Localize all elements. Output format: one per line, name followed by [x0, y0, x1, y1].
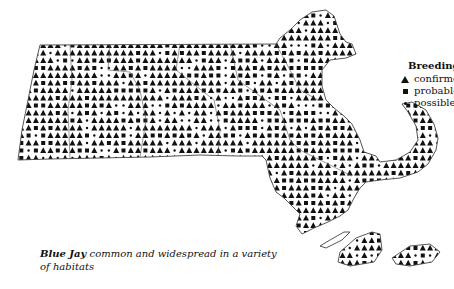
legend-item-possible: possible — [400, 97, 454, 109]
legend: Breeding confirmed probable possible — [400, 60, 454, 109]
legend-label: confirmed — [414, 73, 454, 85]
legend-title: Breeding — [408, 60, 454, 72]
species-name: Blue Jay — [40, 248, 86, 259]
species-caption: Blue Jay common and widespread in a vari… — [40, 247, 280, 273]
triangle-icon — [400, 76, 410, 83]
legend-item-probable: probable — [400, 85, 454, 97]
breeding-distribution-map — [0, 0, 454, 289]
square-icon — [400, 89, 410, 94]
legend-label: possible — [414, 97, 454, 109]
dot-icon — [400, 102, 410, 105]
legend-item-confirmed: confirmed — [400, 73, 454, 85]
legend-label: probable — [414, 85, 454, 97]
county-lines — [68, 44, 352, 176]
